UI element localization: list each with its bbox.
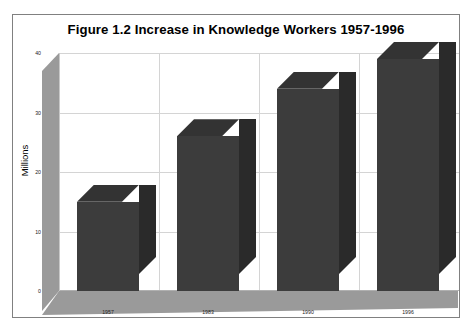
bar-front-face [277, 89, 339, 291]
y-tick-30: 30 [23, 110, 41, 116]
bar-top-face [377, 42, 439, 59]
y-tick-20: 20 [23, 169, 41, 175]
bar-1957[interactable] [77, 202, 139, 291]
x-tick-1990: 1990 [302, 309, 314, 315]
chart-back-wall [42, 53, 59, 311]
bar-top-face [277, 72, 339, 89]
bar-front-face [77, 202, 139, 291]
bar-1990[interactable] [277, 89, 339, 291]
bar-side-face [439, 42, 456, 274]
bar-top-face [77, 185, 139, 202]
x-tick-1957: 1957 [102, 309, 114, 315]
bar-1983[interactable] [177, 136, 239, 291]
x-tick-1983: 1983 [202, 309, 214, 315]
y-tick-0: 0 [23, 288, 41, 294]
bar-1996[interactable] [377, 59, 439, 291]
bar-side-face [239, 119, 256, 274]
bar-side-face [339, 72, 356, 274]
chart-title: Figure 1.2 Increase in Knowledge Workers… [13, 22, 459, 37]
bar-front-face [377, 59, 439, 291]
y-tick-40: 40 [23, 50, 41, 56]
x-tick-1996: 1996 [402, 309, 414, 315]
plot-area: Millions 0 10 20 30 40 [13, 47, 461, 319]
chart-frame: Figure 1.2 Increase in Knowledge Workers… [12, 14, 460, 318]
bars-layer [59, 53, 458, 291]
bar-top-face [177, 119, 239, 136]
bar-side-face [139, 185, 156, 274]
y-axis-tick-labels: 0 10 20 30 40 [17, 53, 41, 309]
y-tick-10: 10 [23, 229, 41, 235]
bar-front-face [177, 136, 239, 291]
x-axis-tick-labels: 1957 1983 1990 1996 [59, 309, 473, 323]
